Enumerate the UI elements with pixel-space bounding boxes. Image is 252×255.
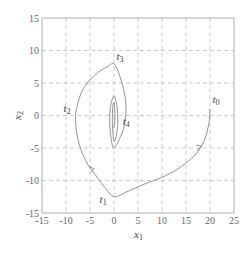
annotation-t0: t0	[212, 93, 219, 107]
point-annotations: t0t1t2t3t4	[64, 50, 220, 207]
x-tick-label: -10	[59, 215, 72, 226]
x-axis-label: x1	[133, 228, 143, 242]
direction-arrows	[89, 145, 201, 173]
y-axis-ticks: -15-10-5051015	[26, 13, 39, 219]
y-tick-label: 15	[29, 13, 39, 24]
x-tick-label: -5	[86, 215, 94, 226]
y-axis-label: x2	[11, 111, 25, 121]
annotation-t1: t1	[100, 193, 107, 207]
y-tick-label: 5	[34, 78, 39, 89]
annotation-t4: t4	[123, 115, 130, 129]
x-tick-label: 10	[157, 215, 167, 226]
y-tick-label: -10	[26, 175, 39, 186]
x-tick-label: 15	[181, 215, 191, 226]
annotation-t3: t3	[116, 50, 123, 64]
x-tick-label: 0	[112, 215, 117, 226]
y-tick-label: 0	[34, 110, 39, 121]
x-axis-ticks: -15-10-50510152025	[35, 215, 239, 226]
grid-lines	[42, 18, 234, 213]
phase-plot: -15-10-50510152025 -15-10-5051015 t0t1t2…	[0, 0, 252, 255]
y-tick-label: 10	[29, 45, 39, 56]
x-tick-label: 20	[205, 215, 215, 226]
annotation-t2: t2	[64, 102, 71, 116]
y-tick-label: -15	[26, 208, 39, 219]
y-tick-label: -5	[31, 143, 39, 154]
x-tick-label: 5	[136, 215, 141, 226]
x-tick-label: 25	[229, 215, 239, 226]
